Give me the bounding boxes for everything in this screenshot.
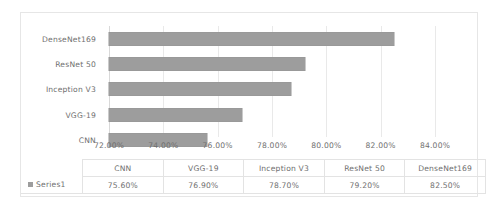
table-value-cell: 79.20%: [324, 177, 405, 194]
x-axis: 72.00%74.00%76.00%78.00%80.00%82.00%84.0…: [21, 140, 477, 156]
x-axis-tick-label: 84.00%: [405, 141, 465, 150]
y-axis-label: VGG-19: [16, 110, 96, 119]
table-value-cell: 75.60%: [83, 177, 164, 194]
table-series-row: Series1 75.60%76.90%78.70%79.20%82.50%: [22, 177, 486, 194]
chart-container: DenseNet169ResNet 50Inception V3VGG-19CN…: [20, 12, 478, 197]
x-axis-tick-label: 72.00%: [79, 141, 139, 150]
chart-category-row: VGG-19: [21, 102, 477, 127]
chart-bar[interactable]: [109, 108, 242, 121]
table-header-row: CNNVGG-19Inception V3ResNet 50DenseNet16…: [22, 160, 486, 177]
chart-category-row: DenseNet169: [21, 26, 477, 51]
chart-category-row: Inception V3: [21, 77, 477, 102]
x-axis-tick-label: 82.00%: [351, 141, 411, 150]
table-corner-cell: [22, 160, 83, 177]
x-axis-tick-label: 76.00%: [188, 141, 248, 150]
table-header-cell: CNN: [83, 160, 164, 177]
x-axis-tick-label: 74.00%: [133, 141, 193, 150]
table-header-cell: VGG-19: [163, 160, 244, 177]
legend-swatch-icon: [28, 182, 33, 187]
y-axis-label: Inception V3: [16, 85, 96, 94]
table-header-cell: ResNet 50: [324, 160, 405, 177]
table-header-cell: Inception V3: [244, 160, 325, 177]
chart-bar[interactable]: [109, 32, 394, 45]
y-axis-label: ResNet 50: [16, 60, 96, 69]
chart-category-row: ResNet 50: [21, 51, 477, 76]
x-axis-tick-label: 78.00%: [242, 141, 302, 150]
x-axis-tick-label: 80.00%: [296, 141, 356, 150]
table-header-cell: DenseNet169: [405, 160, 486, 177]
table-series-legend-cell: Series1: [22, 177, 83, 194]
series-label: Series1: [36, 181, 66, 190]
chart-bar[interactable]: [109, 58, 305, 71]
y-axis-label: DenseNet169: [16, 34, 96, 43]
table-value-cell: 76.90%: [163, 177, 244, 194]
plot-area: DenseNet169ResNet 50Inception V3VGG-19CN…: [21, 13, 477, 140]
table-value-cell: 82.50%: [405, 177, 486, 194]
chart-data-table: CNNVGG-19Inception V3ResNet 50DenseNet16…: [21, 159, 486, 194]
chart-bar[interactable]: [109, 83, 291, 96]
table-value-cell: 78.70%: [244, 177, 325, 194]
